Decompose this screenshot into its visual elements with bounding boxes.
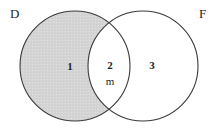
region-label-intersection: 2 [102,60,118,71]
region-label-right-only: 3 [144,60,160,71]
region-label-intersection-sub: m [102,76,118,87]
set-label-d: D [10,7,19,20]
region-label-left-only: 1 [62,61,78,72]
set-label-f: F [199,7,206,20]
venn-diagram-figure: D F 1 2 m 3 [0,0,218,131]
